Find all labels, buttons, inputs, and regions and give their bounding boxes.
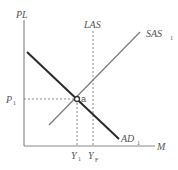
yf-label: Y (88, 150, 95, 161)
sas-label: SAS (146, 28, 162, 39)
y1-label: Y (71, 150, 78, 161)
y-axis-label: PL (15, 9, 28, 20)
p1-subscript: 1 (13, 100, 16, 106)
yf-subscript: F (95, 157, 99, 163)
ad-curve (27, 52, 119, 139)
ad-subscript: 1 (137, 140, 140, 146)
sas-subscript: 1 (170, 35, 173, 41)
p1-label: P (5, 94, 12, 105)
las-label: LAS (83, 19, 101, 30)
equilibrium-label: a (81, 94, 86, 104)
ad-label: AD (120, 133, 135, 144)
sas-curve (49, 32, 140, 125)
ad-as-diagram: PL M LAS SAS 1 AD 1 a P 1 Y 1 Y F (0, 0, 178, 170)
x-axis-label: M (156, 141, 166, 152)
equilibrium-point (75, 97, 80, 102)
y1-subscript: 1 (78, 156, 81, 162)
